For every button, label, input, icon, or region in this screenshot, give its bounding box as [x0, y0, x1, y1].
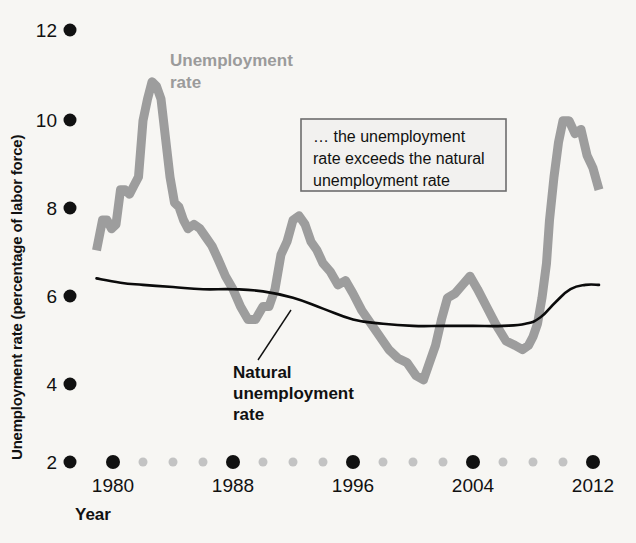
- x-axis-minor-dot: [529, 458, 538, 467]
- y-tick-dot-8: [64, 202, 77, 215]
- chart-figure: Unemployment rate (percentage of labor f…: [0, 0, 636, 543]
- y-tick-label-10: 10: [36, 110, 57, 131]
- x-axis-title: Year: [75, 505, 111, 524]
- x-axis-minor-dot: [319, 458, 328, 467]
- callout-annotation: … the unemployment rate exceeds the natu…: [301, 119, 506, 191]
- x-axis-minor-dot: [289, 458, 298, 467]
- chart-svg: Unemployment rate (percentage of labor f…: [0, 0, 636, 543]
- x-axis-minor-dot: [139, 458, 148, 467]
- x-axis-major-dot: [106, 455, 120, 469]
- y-tick-dot-12: [64, 24, 77, 37]
- x-axis-minor-dot: [199, 458, 208, 467]
- x-axis-minor-dot: [379, 458, 388, 467]
- y-tick-dot-4: [64, 378, 77, 391]
- x-tick-label-1988: 1988: [212, 475, 254, 496]
- callout-line-3: unemployment rate: [313, 172, 450, 189]
- x-axis-minor-dot: [259, 458, 268, 467]
- y-axis-title: Unemployment rate (percentage of labor f…: [8, 135, 25, 460]
- x-axis-major-dot: [466, 455, 480, 469]
- x-tick-label-2004: 2004: [452, 475, 495, 496]
- x-axis-major-dot: [586, 455, 600, 469]
- chart-background: [0, 0, 636, 543]
- x-tick-label-1980: 1980: [92, 475, 134, 496]
- y-tick-label-6: 6: [46, 286, 57, 307]
- x-axis-minor-dot: [559, 458, 568, 467]
- x-axis-minor-dot: [409, 458, 418, 467]
- y-tick-label-12: 12: [36, 20, 57, 41]
- natural-rate-label-line3: rate: [233, 405, 264, 424]
- callout-line-2: rate exceeds the natural: [313, 150, 485, 167]
- unemployment-rate-label-line1: Unemployment: [170, 51, 293, 70]
- x-axis-major-dot: [346, 455, 360, 469]
- x-tick-label-2012: 2012: [572, 475, 614, 496]
- y-axis-title-text: Unemployment rate (percentage of labor f…: [8, 135, 25, 460]
- x-tick-label-1996: 1996: [332, 475, 374, 496]
- y-tick-dot-2: [64, 456, 77, 469]
- callout-line-1: … the unemployment: [313, 128, 466, 145]
- y-tick-label-2: 2: [46, 452, 57, 473]
- y-tick-dot-6: [64, 290, 77, 303]
- unemployment-rate-label-line2: rate: [170, 73, 201, 92]
- natural-rate-label-line1: Natural: [233, 363, 292, 382]
- y-tick-dot-10: [64, 114, 77, 127]
- y-tick-label-4: 4: [46, 374, 57, 395]
- x-axis-minor-dot: [499, 458, 508, 467]
- natural-rate-label-line2: unemployment: [233, 384, 354, 403]
- x-axis-major-dot: [226, 455, 240, 469]
- y-tick-label-8: 8: [46, 198, 57, 219]
- x-axis-minor-dot: [169, 458, 178, 467]
- x-axis-minor-dot: [439, 458, 448, 467]
